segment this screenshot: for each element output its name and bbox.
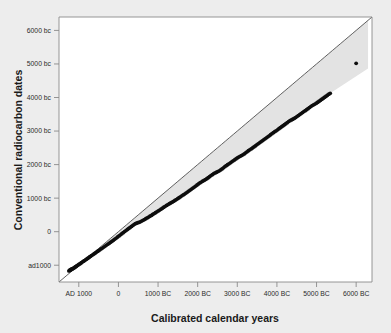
data-point bbox=[354, 61, 358, 65]
x-tick-label: 3000 BC bbox=[224, 290, 251, 297]
radiocarbon-calibration-chart: 6000 bc5000 bc4000 bc3000 bc2000 bc1000 … bbox=[0, 0, 391, 333]
y-tick-label: 1000 bc bbox=[27, 195, 52, 202]
x-tick-label: 6000 BC bbox=[343, 290, 370, 297]
y-tick-label: ad1000 bbox=[28, 262, 51, 269]
x-tick-label: 4000 BC bbox=[264, 290, 291, 297]
x-axis-title: Calibrated calendar years bbox=[151, 312, 279, 324]
chart-canvas: 6000 bc5000 bc4000 bc3000 bc2000 bc1000 … bbox=[0, 0, 391, 333]
y-axis-title: Conventional radiocarbon dates bbox=[12, 70, 24, 231]
y-tick-label: 3000 bc bbox=[27, 127, 52, 134]
x-tick-label: 5000 BC bbox=[303, 290, 330, 297]
y-tick-label: 5000 bc bbox=[27, 60, 52, 67]
x-tick-label: 0 bbox=[117, 290, 121, 297]
data-point bbox=[328, 91, 332, 95]
x-tick-label: AD 1000 bbox=[66, 290, 93, 297]
x-tick-label: 2000 BC bbox=[184, 290, 211, 297]
y-tick-label: 0 bbox=[47, 228, 51, 235]
y-tick-label: 4000 bc bbox=[27, 94, 52, 101]
y-tick-label: 2000 bc bbox=[27, 161, 52, 168]
x-tick-label: 1000 BC bbox=[145, 290, 172, 297]
y-tick-label: 6000 bc bbox=[27, 27, 52, 34]
